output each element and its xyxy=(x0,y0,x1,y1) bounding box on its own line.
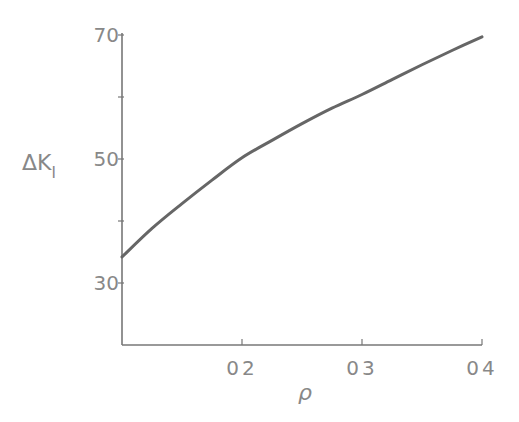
y-axis-label-subscript: I xyxy=(51,164,55,182)
x-tick-label: 02 xyxy=(226,356,257,380)
axes xyxy=(122,33,482,345)
ticks xyxy=(118,35,482,345)
tick-labels: 305070020304 xyxy=(94,23,498,380)
y-axis-label-main: ΔK xyxy=(22,150,52,175)
y-axis-label: ΔKI xyxy=(22,150,56,182)
x-tick-label: 04 xyxy=(466,356,497,380)
y-tick-label: 70 xyxy=(94,23,119,47)
y-tick-label: 30 xyxy=(94,271,119,295)
chart: 305070020304 ΔKI ρ xyxy=(0,0,519,422)
x-tick-label: 03 xyxy=(346,356,377,380)
x-axis-label: ρ xyxy=(298,380,312,405)
series-line-delta-k xyxy=(122,37,482,257)
y-tick-label: 50 xyxy=(94,147,119,171)
